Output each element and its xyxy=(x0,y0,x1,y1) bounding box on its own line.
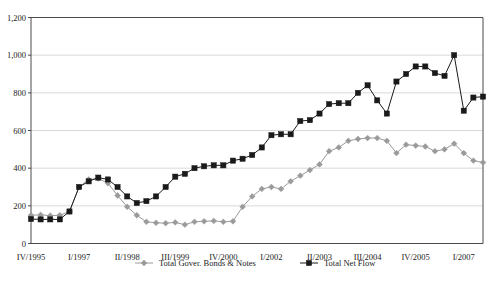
data-point-marker xyxy=(423,64,428,69)
data-point-marker xyxy=(96,175,101,180)
data-point-marker xyxy=(86,179,91,184)
data-point-marker xyxy=(298,118,303,123)
y-tick-label: 600 xyxy=(13,126,26,136)
data-point-marker xyxy=(211,163,216,168)
data-point-marker xyxy=(153,220,159,226)
data-point-marker xyxy=(432,70,437,75)
data-point-marker xyxy=(365,135,371,141)
data-point-marker xyxy=(182,222,188,228)
data-point-marker xyxy=(278,132,283,137)
data-point-marker xyxy=(240,156,245,161)
series-line xyxy=(31,55,483,219)
data-point-marker xyxy=(394,79,399,84)
data-point-marker xyxy=(230,158,235,163)
data-point-marker xyxy=(153,194,158,199)
data-point-marker xyxy=(297,173,303,179)
data-point-marker xyxy=(192,166,197,171)
data-point-marker xyxy=(413,64,418,69)
data-point-marker xyxy=(403,71,408,76)
data-point-marker xyxy=(125,194,130,199)
data-point-marker xyxy=(105,177,110,182)
legend-label: Total Net Flow xyxy=(324,258,376,268)
y-tick-label: 0 xyxy=(22,239,26,249)
data-point-marker xyxy=(201,218,207,224)
x-tick-label: IV/2005 xyxy=(402,252,430,262)
data-point-marker xyxy=(432,148,438,154)
legend-item-gover-bonds-notes[interactable]: Total Gover. Bonds & Notes xyxy=(135,258,256,268)
data-point-marker xyxy=(182,171,187,176)
series-gover-bonds-notes xyxy=(28,135,486,227)
data-point-marker xyxy=(422,144,428,150)
data-point-marker xyxy=(413,143,419,149)
y-tick-label: 800 xyxy=(13,88,26,98)
legend-marker-icon xyxy=(306,260,311,265)
data-point-marker xyxy=(221,163,226,168)
data-point-marker xyxy=(192,219,198,225)
data-point-marker xyxy=(173,174,178,179)
x-tick-label: II/1998 xyxy=(115,252,140,262)
data-point-marker xyxy=(211,218,217,224)
x-tick-label: I/1997 xyxy=(68,252,90,262)
data-point-marker xyxy=(327,102,332,107)
data-point-marker xyxy=(67,209,72,214)
y-tick-label: 1,000 xyxy=(7,50,26,60)
data-point-marker xyxy=(288,132,293,137)
data-point-marker xyxy=(38,217,43,222)
data-point-marker xyxy=(76,184,81,189)
data-point-marker xyxy=(384,111,389,116)
chart-container: 02004006008001,0001,200 IV/1995I/1997II/… xyxy=(0,0,490,281)
data-point-marker xyxy=(374,135,380,141)
data-point-marker xyxy=(144,219,150,225)
data-point-marker xyxy=(471,95,476,100)
data-point-marker xyxy=(144,199,149,204)
data-point-marker xyxy=(172,220,178,226)
data-point-marker xyxy=(336,101,341,106)
y-axis-tick-labels: 02004006008001,0001,200 xyxy=(7,13,26,249)
data-point-marker xyxy=(163,220,169,226)
x-tick-label: IV/1995 xyxy=(17,252,45,262)
data-point-marker xyxy=(202,164,207,169)
data-point-marker xyxy=(57,217,62,222)
series-total-net-flow xyxy=(28,53,485,222)
data-point-marker xyxy=(461,108,466,113)
data-point-marker xyxy=(375,98,380,103)
data-point-marker xyxy=(442,73,447,78)
x-tick-label: I/2007 xyxy=(453,252,475,262)
data-point-marker xyxy=(250,152,255,157)
chart-legend: Total Gover. Bonds & NotesTotal Net Flow xyxy=(135,258,376,268)
data-point-marker xyxy=(163,184,168,189)
data-point-marker xyxy=(220,219,226,225)
data-point-marker xyxy=(48,217,53,222)
data-point-marker xyxy=(480,94,485,99)
data-point-marker xyxy=(134,200,139,205)
quarterly-flow-line-chart: 02004006008001,0001,200 IV/1995I/1997II/… xyxy=(0,0,490,281)
data-point-marker xyxy=(452,53,457,58)
data-point-marker xyxy=(317,111,322,116)
y-tick-label: 400 xyxy=(13,163,26,173)
data-point-marker xyxy=(355,136,361,142)
legend-marker-icon xyxy=(141,260,147,266)
data-point-marker xyxy=(346,101,351,106)
data-point-marker xyxy=(480,160,486,166)
data-point-marker xyxy=(115,184,120,189)
data-point-marker xyxy=(28,216,33,221)
data-series-layer xyxy=(28,53,486,228)
data-point-marker xyxy=(230,218,236,224)
y-tick-label: 1,200 xyxy=(7,13,26,23)
data-point-marker xyxy=(269,133,274,138)
data-point-marker xyxy=(307,118,312,123)
data-point-marker xyxy=(345,138,351,144)
data-point-marker xyxy=(365,83,370,88)
legend-label: Total Gover. Bonds & Notes xyxy=(159,258,256,268)
data-point-marker xyxy=(442,146,448,152)
y-tick-label: 200 xyxy=(13,201,26,211)
data-point-marker xyxy=(355,90,360,95)
x-tick-label: I/2002 xyxy=(260,252,282,262)
data-point-marker xyxy=(336,145,342,151)
data-point-marker xyxy=(259,145,264,150)
data-point-marker xyxy=(269,184,275,190)
